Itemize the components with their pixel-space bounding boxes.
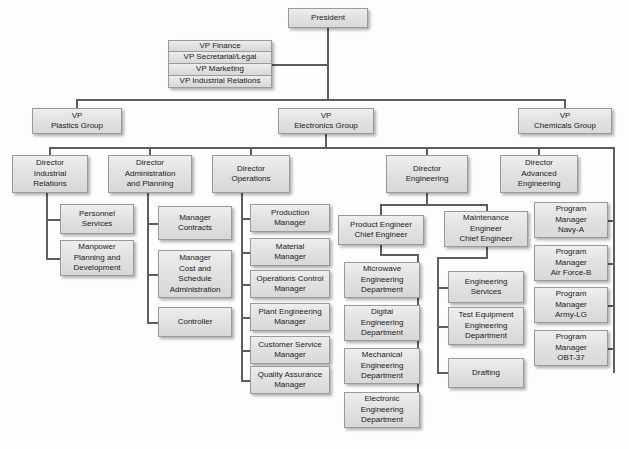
node-program-manager-navy-a[interactable]: Program Manager Navy-A [534,202,608,238]
connector-director-bus [49,147,615,149]
connector-program-manager-rail [613,147,615,373]
node-director-operations[interactable]: Director Operations [212,155,290,193]
node-vp-electronics-group[interactable]: VP Electronics Group [278,108,374,134]
node-customer-service-manager[interactable]: Customer Service Manager [250,336,330,364]
node-director-administration-planning[interactable]: Director Administration and Planning [108,155,192,193]
node-digital-engineering-department[interactable]: Digital Engineering Department [344,305,420,341]
node-program-manager-air-force-b[interactable]: Program Manager Air Force-B [534,245,608,281]
node-director-industrial-relations[interactable]: Director Industrial Relations [12,155,88,193]
node-production-manager[interactable]: Production Manager [250,204,330,232]
connector-engineering-split-bus [380,204,487,206]
connector-staff-to-trunk [272,64,328,66]
node-controller[interactable]: Controller [158,307,232,337]
node-president[interactable]: President [288,8,368,28]
connector-vp-electronics-drop [325,134,327,148]
node-personnel-services[interactable]: Personnel Services [60,204,134,234]
connector-vp-bus [76,99,566,101]
node-vp-chemicals-group[interactable]: VP Chemicals Group [518,108,612,134]
node-drafting[interactable]: Drafting [448,358,524,388]
connector-rail-industrial-relations [46,193,48,260]
node-vp-industrial-relations[interactable]: VP Industrial Relations [168,76,272,88]
connector-maintenance-engineer-cross [437,257,488,259]
node-vp-secretarial-legal[interactable]: VP Secretarial/Legal [168,52,272,64]
node-director-advanced-engineering[interactable]: Director Advanced Engineering [500,155,578,193]
node-vp-marketing[interactable]: VP Marketing [168,64,272,76]
org-chart-canvas: President VP Finance VP Secretarial/Lega… [0,0,629,449]
connector-product-engineer-cross [380,254,418,256]
node-manager-contracts[interactable]: Manager Contracts [158,206,232,240]
staff-vp-stack: VP Finance VP Secretarial/Legal VP Marke… [168,40,272,88]
node-product-engineer-chief-engineer[interactable]: Product Engineer Chief Engineer [338,215,424,245]
connector-rail-administration [147,193,149,323]
node-vp-finance[interactable]: VP Finance [168,40,272,52]
node-director-engineering[interactable]: Director Engineering [386,155,468,193]
node-quality-assurance-manager[interactable]: Quality Assurance Manager [250,366,330,394]
connector-rail-operations [241,193,243,381]
node-test-equipment-engineering-department[interactable]: Test Equipment Engineering Department [448,307,524,345]
node-maintenance-engineer-chief-engineer[interactable]: Maintenance Engineer Chief Engineer [444,211,528,247]
node-material-manager[interactable]: Material Manager [250,238,330,266]
connector-rail-maintenance [437,257,439,373]
node-operations-control-manager[interactable]: Operations Control Manager [250,270,330,298]
node-mechanical-engineering-department[interactable]: Mechanical Engineering Department [344,348,420,384]
node-program-manager-obt-37[interactable]: Program Manager OBT-37 [534,330,608,366]
node-microwave-engineering-department[interactable]: Microwave Engineering Department [344,262,420,298]
node-vp-plastics-group[interactable]: VP Plastics Group [32,108,122,134]
node-plant-engineering-manager[interactable]: Plant Engineering Manager [250,303,330,331]
node-program-manager-army-lg[interactable]: Program Manager Army-LG [534,287,608,323]
node-manpower-planning-development[interactable]: Manpower Planning and Development [60,240,134,276]
node-electronic-engineering-department[interactable]: Electronic Engineering Department [344,392,420,428]
node-manager-cost-schedule-administration[interactable]: Manager Cost and Schedule Administration [158,250,232,298]
node-engineering-services[interactable]: Engineering Services [448,271,524,303]
